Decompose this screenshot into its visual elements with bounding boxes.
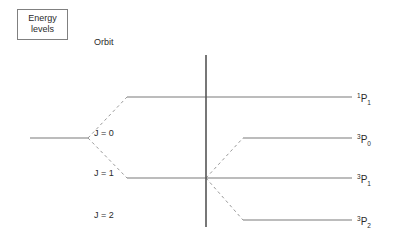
connector-triplet-to-j0: [206, 138, 243, 178]
orbit-level-j2-term-symbol: 3P2: [357, 215, 371, 229]
orbit-level-j1-label: J = 1: [94, 169, 114, 178]
energy-levels-box-line2: levels: [20, 24, 65, 35]
energy-level-diagram: Energy levels SpinOrbit1s2pS = 0S = 11P1…: [0, 0, 394, 249]
orbit-level-j2-label: J = 2: [94, 211, 114, 220]
orbit-level-j1-term-symbol: 3P1: [357, 173, 371, 187]
term-symbol-singlet-p1: 1P1: [357, 92, 371, 106]
orbit-level-j0-label: J = 0: [94, 129, 114, 138]
energy-levels-box: Energy levels: [17, 9, 68, 40]
connector-triplet-to-j2: [206, 178, 243, 220]
energy-levels-box-line1: Energy: [20, 13, 65, 24]
orbit-level-j0-term-symbol: 3P0: [357, 133, 371, 147]
orbit-level-j2-term-symbol-j-value: 2: [367, 222, 371, 229]
term-symbol-singlet-p1-j-value: 1: [367, 99, 371, 106]
orbit-level-j0-term-symbol-j-value: 0: [367, 140, 371, 147]
orbit-column-header: Orbit: [94, 38, 114, 47]
orbit-level-j1-term-symbol-j-value: 1: [367, 180, 371, 187]
